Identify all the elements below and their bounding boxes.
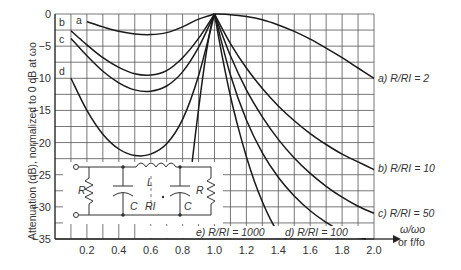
- y-tick-label: −5: [38, 40, 51, 52]
- x-tick-label: 0.2: [79, 244, 94, 256]
- x-tick-label: 1.8: [334, 244, 349, 256]
- x-tick-label: 0.6: [143, 244, 158, 256]
- x-tick-label: 1.6: [303, 244, 318, 256]
- circuit-label-RI: RI: [145, 200, 156, 212]
- curve-letter-d: d: [59, 65, 65, 77]
- annotation-e: e) R/RI = 1000: [196, 226, 265, 238]
- x-tick-label: 1.4: [271, 244, 286, 256]
- annotation-d: d) R/RI = 100: [285, 226, 348, 238]
- curve-letter-b: b: [59, 16, 65, 28]
- y-tick-label: 0: [45, 8, 51, 20]
- annotation-b: b) R/RI = 10: [378, 162, 435, 174]
- x-tick-label: 0.4: [111, 244, 126, 256]
- curve-e: [192, 14, 214, 162]
- y-axis-label: Attenuation (dB), normalized to 0 dB at …: [26, 42, 38, 240]
- attenuation-chart: R C L RI C R 0−5−10−15−20−25−30−350.20.4…: [0, 0, 461, 270]
- annotation-a: a) R/RI = 2: [378, 72, 429, 84]
- x-tick-label: 1.0: [207, 244, 222, 256]
- curve-d: [71, 14, 215, 156]
- curve-letter-c: c: [59, 33, 64, 45]
- circuit-label-L: L: [147, 176, 153, 188]
- circuit-label-R-right: R: [196, 184, 204, 196]
- circuit-inset: R C L RI C R: [63, 162, 223, 224]
- x-axis-label-line1: ω/ωo: [400, 223, 425, 235]
- circuit-label-R-left: R: [78, 184, 86, 196]
- annotation-c: c) R/RI = 50: [378, 207, 434, 219]
- x-axis-label-line2: or f/fo: [398, 236, 425, 248]
- curve-letter-a: a: [76, 14, 82, 26]
- curve-c: [71, 14, 215, 91]
- circuit-label-C-right: C: [184, 200, 192, 212]
- x-tick-label: 0.8: [175, 244, 190, 256]
- x-tick-label: 2.0: [366, 244, 381, 256]
- x-tick-label: 1.2: [239, 244, 254, 256]
- circuit-label-C-left: C: [130, 200, 138, 212]
